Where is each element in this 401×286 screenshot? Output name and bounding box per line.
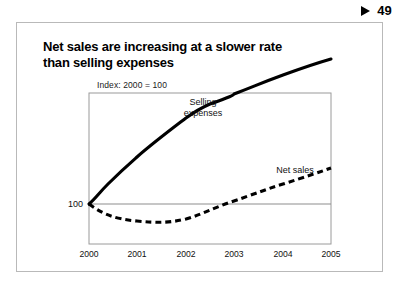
page-number: 49 xyxy=(377,4,392,17)
series-label-net-sales: Net sales xyxy=(276,165,314,175)
chart-svg: 100 2000 2001 2002 2003 2004 2005 Sellin… xyxy=(17,23,384,273)
page-marker: 49 xyxy=(361,2,392,19)
line-chart: 100 2000 2001 2002 2003 2004 2005 Sellin… xyxy=(17,23,384,273)
series-label-selling-expenses-line-1: Selling xyxy=(189,97,216,107)
play-triangle-icon xyxy=(361,6,370,16)
series-line-selling-expenses xyxy=(89,59,331,204)
y-tick-label-100: 100 xyxy=(68,199,83,209)
x-tick-label-2003: 2003 xyxy=(224,249,243,259)
series-line-net-sales xyxy=(89,168,331,222)
x-tick-label-2004: 2004 xyxy=(273,249,292,259)
x-tick-label-2000: 2000 xyxy=(79,249,98,259)
x-tick-label-2002: 2002 xyxy=(176,249,195,259)
slide-card: Net sales are increasing at a slower rat… xyxy=(16,22,383,272)
x-tick-label-2005: 2005 xyxy=(321,249,340,259)
x-tick-label-2001: 2001 xyxy=(127,249,146,259)
series-label-selling-expenses-line-2: expenses xyxy=(184,108,223,118)
